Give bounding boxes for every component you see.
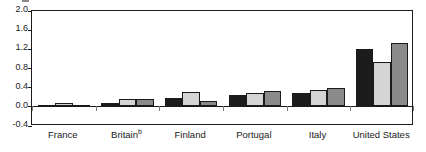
x-axis-group-tick [287, 106, 288, 111]
bar-portugal-series-2 [246, 93, 264, 106]
bar-finland-series-1 [165, 98, 183, 107]
bar-italy-series-1 [292, 93, 310, 106]
plot-area [31, 10, 413, 125]
x-axis: FranceBritainbFinlandPortugalItalyUnited… [31, 129, 413, 149]
x-axis-group-tick [159, 106, 160, 111]
y-axis-tick-mark [28, 68, 32, 69]
x-axis-label-footnote: b [138, 128, 142, 135]
y-axis-tick-mark [28, 87, 32, 88]
x-axis-label-text: Italy [309, 129, 326, 140]
bar-united-states-series-2 [373, 62, 391, 106]
x-axis-group-tick [350, 106, 351, 111]
y-axis-tick-label: 1.6 [2, 24, 28, 33]
x-axis-label-text: United States [353, 129, 410, 140]
bar-united-states-series-1 [356, 49, 374, 106]
bar-finland-series-3 [200, 101, 218, 106]
bar-france-series-1 [38, 105, 56, 107]
bar-britain-series-1 [101, 103, 119, 106]
y-axis-tick-mark [28, 126, 32, 127]
bar-britain-series-2 [119, 99, 137, 107]
y-axis-tick-label: 1.2 [2, 43, 28, 52]
y-axis-tick-label: 2.0 [2, 5, 28, 14]
bar-italy-series-2 [310, 90, 328, 107]
y-axis-tick-label: 0.0 [2, 101, 28, 110]
y-axis-tick-mark [28, 49, 32, 50]
bar-portugal-series-1 [229, 95, 247, 106]
bar-france-series-3 [73, 105, 91, 107]
y-axis-tick-label: 0.8 [2, 63, 28, 72]
x-axis-label-text: Portugal [236, 129, 271, 140]
y-axis-tick-label: 0.4 [2, 82, 28, 91]
bar-finland-series-2 [182, 92, 200, 106]
x-axis-label-britain: Britainb [95, 129, 159, 140]
x-axis-label-finland: Finland [158, 129, 222, 140]
bar-united-states-series-3 [391, 43, 409, 106]
bar-france-series-2 [55, 103, 73, 106]
bar-portugal-series-3 [264, 91, 282, 107]
x-axis-label-italy: Italy [286, 129, 350, 140]
x-axis-label-text: Britain [111, 129, 138, 140]
x-axis-label-text: France [48, 129, 78, 140]
x-axis-label-text: Finland [175, 129, 206, 140]
y-axis: 2.01.61.20.80.40.0-0.4 [0, 0, 28, 152]
x-axis-label-united-states: United States [349, 129, 413, 140]
y-axis-tick-label: -0.4 [2, 120, 28, 129]
bar-chart: 2.01.61.20.80.40.0-0.4 FranceBritainbFin… [0, 0, 426, 152]
x-axis-group-tick [223, 106, 224, 111]
x-axis-label-france: France [31, 129, 95, 140]
x-axis-label-portugal: Portugal [222, 129, 286, 140]
y-axis-tick-mark [28, 11, 32, 12]
y-axis-tick-mark [28, 30, 32, 31]
bar-italy-series-3 [327, 88, 345, 106]
x-axis-group-tick [32, 106, 33, 111]
x-axis-group-tick [96, 106, 97, 111]
bar-britain-series-3 [136, 99, 154, 107]
x-axis-group-tick [413, 106, 414, 111]
